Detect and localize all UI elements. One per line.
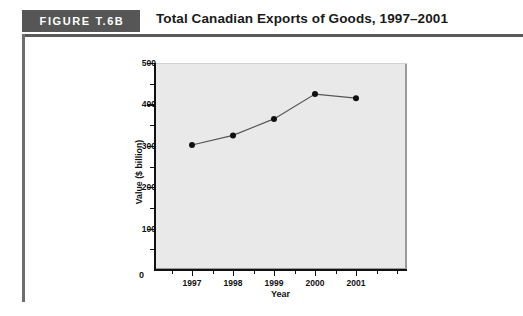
figure-header: FIGURE T.6B Total Canadian Exports of Go… bbox=[0, 10, 523, 34]
x-tick-major bbox=[233, 270, 234, 276]
x-axis-title: Year bbox=[154, 289, 407, 299]
series-plot bbox=[154, 63, 407, 270]
x-tick-minor bbox=[172, 270, 173, 274]
data-point-marker bbox=[189, 142, 195, 148]
line-chart: 100200300400500 19971998199920002001 0 V… bbox=[118, 55, 418, 300]
x-tick-minor bbox=[397, 270, 398, 274]
x-tick-minor bbox=[377, 270, 378, 274]
left-border-rule bbox=[22, 34, 25, 302]
y-axis-zero-label: 0 bbox=[139, 270, 144, 280]
x-tick-label: 1998 bbox=[224, 278, 243, 288]
y-tick-label: 500 bbox=[126, 58, 156, 68]
x-tick-major bbox=[356, 270, 357, 276]
header-divider bbox=[22, 34, 523, 37]
y-tick-label: 400 bbox=[126, 99, 156, 109]
y-tick-label: 100 bbox=[126, 224, 156, 234]
x-tick-label: 2001 bbox=[347, 278, 366, 288]
x-tick-minor bbox=[295, 270, 296, 274]
x-tick-minor bbox=[213, 270, 214, 274]
x-tick-major bbox=[192, 270, 193, 276]
x-tick-label: 1999 bbox=[265, 278, 284, 288]
data-point-marker bbox=[230, 132, 236, 138]
figure-page: FIGURE T.6B Total Canadian Exports of Go… bbox=[0, 0, 523, 316]
x-tick-minor bbox=[254, 270, 255, 274]
x-tick-minor bbox=[336, 270, 337, 274]
x-tick-label: 1997 bbox=[183, 278, 202, 288]
figure-title: Total Canadian Exports of Goods, 1997–20… bbox=[156, 11, 448, 26]
x-tick-major bbox=[315, 270, 316, 276]
x-tick-label: 2000 bbox=[306, 278, 325, 288]
data-point-marker bbox=[353, 95, 359, 101]
data-point-marker bbox=[312, 91, 318, 97]
y-axis-title: Value ($ billion) bbox=[134, 127, 144, 217]
x-tick-major bbox=[274, 270, 275, 276]
data-point-marker bbox=[271, 116, 277, 122]
figure-number-badge: FIGURE T.6B bbox=[22, 10, 140, 32]
